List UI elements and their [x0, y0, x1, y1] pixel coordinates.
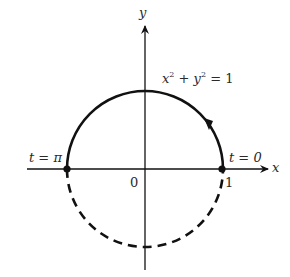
point-label-t-0: t = 0	[229, 151, 262, 164]
tick-label-1: 1	[225, 176, 233, 189]
equation-label: x2 + y2 = 1	[162, 71, 234, 85]
diagram-canvas	[0, 0, 290, 277]
point-t-pi	[63, 165, 70, 172]
unit-circle-diagram: y x 0 1 x2 + y2 = 1 t = π t = 0	[0, 0, 290, 277]
point-label-t-pi: t = π	[29, 151, 62, 164]
origin-label: 0	[130, 176, 138, 189]
eq-rhs: = 1	[206, 71, 233, 86]
y-axis-label: y	[139, 6, 146, 19]
x-axis-label: x	[272, 161, 279, 174]
eq-plus: +	[174, 71, 193, 86]
point-t-0	[218, 165, 225, 172]
eq-y: y	[194, 71, 201, 86]
